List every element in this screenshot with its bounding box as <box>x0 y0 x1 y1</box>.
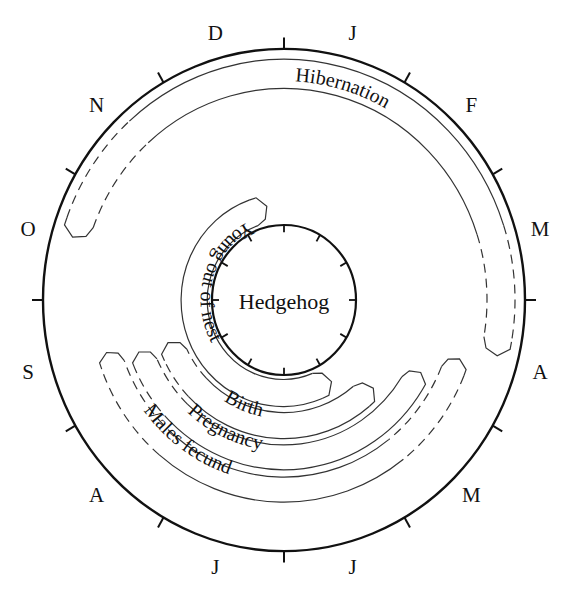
month-label: M <box>531 217 550 241</box>
month-tick <box>405 73 411 83</box>
band-birth <box>162 343 375 439</box>
month-tick <box>158 517 164 527</box>
month-tick <box>405 517 411 527</box>
center-label-hedgehog: Hedgehog <box>239 289 329 314</box>
hedgehog-annual-cycle-diagram: JFMAMJJASONDHibernationYoung out of nest… <box>0 0 568 597</box>
month-tick <box>66 169 76 175</box>
month-tick <box>66 426 76 432</box>
month-label: J <box>349 21 357 45</box>
hibernation-label: Hibernation <box>295 63 395 112</box>
month-tick <box>493 426 503 432</box>
month-label: M <box>462 483 481 507</box>
month-label: S <box>22 360 34 384</box>
month-label: A <box>89 483 105 507</box>
month-label: N <box>89 93 104 117</box>
inner-tick <box>248 359 252 365</box>
month-tick <box>158 73 164 83</box>
month-label: F <box>466 93 478 117</box>
band-pregnancy <box>133 352 426 470</box>
inner-tick <box>317 359 321 365</box>
month-label: J <box>349 555 357 579</box>
inner-tick <box>340 262 346 266</box>
inner-tick <box>340 334 346 338</box>
month-label: J <box>211 555 219 579</box>
inner-tick <box>317 235 321 241</box>
month-label: D <box>208 21 223 45</box>
young-out-of-nest-label: Young out of nest <box>197 218 258 345</box>
month-tick <box>493 169 503 175</box>
month-label: A <box>532 360 548 384</box>
month-label: O <box>20 217 35 241</box>
